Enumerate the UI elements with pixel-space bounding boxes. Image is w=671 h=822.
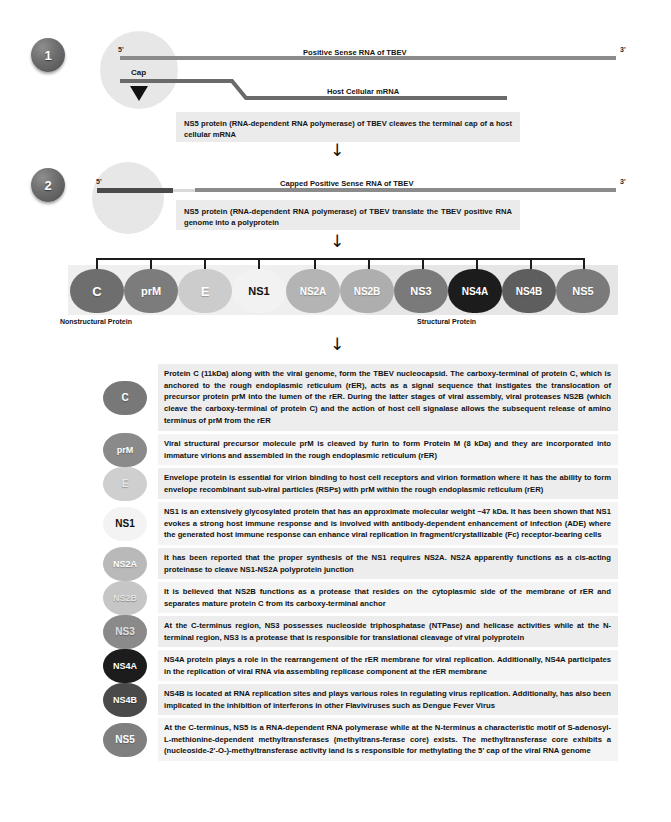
protein-marker-ns5: NS5 xyxy=(103,723,147,757)
protein-description-text-ns5: At the C-terminus, NS5 is a RNA-dependen… xyxy=(158,718,618,761)
protein-marker-label: C xyxy=(121,392,128,403)
polyprotein-oval-label: NS4A xyxy=(462,286,489,297)
protein-description-text-c: Protein C (11kDa) along with the viral g… xyxy=(158,364,618,431)
protein-marker-label: NS1 xyxy=(115,518,134,529)
capped-positive-sense-rna-strand xyxy=(195,188,616,192)
protein-marker-label: NS3 xyxy=(115,626,134,637)
polyprotein-oval-label: NS5 xyxy=(572,285,593,297)
polyprotein-oval-label: NS2A xyxy=(300,286,327,297)
protein-marker-ns2a: NS2A xyxy=(103,547,147,581)
capped-rna-highlight-blob xyxy=(92,162,164,234)
capped-rna-caption: Capped Positive Sense RNA of TBEV xyxy=(280,179,413,188)
three-prime-label-2: 3' xyxy=(620,178,626,185)
polyprotein-oval-e: E xyxy=(178,269,232,313)
polyprotein-oval-label: E xyxy=(201,284,210,299)
polyprotein-oval-ns1: NS1 xyxy=(232,269,286,313)
polyprotein-oval-ns4b: NS4B xyxy=(502,269,556,313)
protein-description-text-ns2a: It has been reported that the proper syn… xyxy=(158,548,618,579)
nonstructural-protein-label: Nonstructural Protein xyxy=(60,318,132,325)
polyprotein-oval-label: prM xyxy=(141,285,161,297)
protein-marker-label: NS5 xyxy=(115,734,134,745)
protein-marker-prm: prM xyxy=(103,433,147,467)
host-mrna-cap-segment xyxy=(120,79,223,83)
protein-marker-ns1: NS1 xyxy=(103,507,147,541)
step-badge-1-label: 1 xyxy=(44,48,51,63)
protein-description-text-ns1: NS1 is an extensively glycosylated prote… xyxy=(158,502,618,545)
host-mrna-strand xyxy=(252,96,507,100)
protein-description-text-ns2b: It is believed that NS2B functions as a … xyxy=(158,582,618,613)
step-2-note: NS5 protein (RNA-dependent RNA polymeras… xyxy=(176,200,520,230)
protein-description-text-ns4b: NS4B is located at RNA replication sites… xyxy=(158,684,618,715)
capped-rna-linker xyxy=(173,189,195,192)
protein-marker-label: NS4A xyxy=(113,661,137,671)
protein-marker-ns4b: NS4B xyxy=(103,683,147,717)
polyprotein-oval-c: C xyxy=(70,269,124,313)
step-1-note: NS5 protein (RNA-dependent RNA polymeras… xyxy=(176,112,520,142)
step-badge-2: 2 xyxy=(31,168,65,202)
structural-protein-label: Structural Protein xyxy=(417,318,476,325)
down-arrow-icon-1: ↓ xyxy=(330,142,344,159)
polyprotein-bracket xyxy=(96,258,584,260)
host-mrna-caption: Host Cellular mRNA xyxy=(327,87,399,96)
capped-rna-cap-segment xyxy=(97,188,173,193)
five-prime-label-1: 5' xyxy=(118,46,124,53)
protein-description-text-ns3: At the C-terminus region, NS3 possesses … xyxy=(158,616,618,647)
figure-canvas: 1 5' 3' Positive Sense RNA of TBEV Host … xyxy=(0,0,671,822)
protein-description-text-e: Envelope protein is essential for virion… xyxy=(158,468,618,499)
cleavage-arrowhead-icon xyxy=(130,86,148,101)
protein-marker-label: E xyxy=(122,478,129,489)
polyprotein-oval-ns3: NS3 xyxy=(394,269,448,313)
polyprotein-oval-label: C xyxy=(92,284,101,299)
protein-marker-e: E xyxy=(103,467,147,501)
polyprotein-oval-label: NS4B xyxy=(516,286,543,297)
polyprotein-oval-prm: prM xyxy=(124,269,178,313)
protein-marker-label: NS2B xyxy=(113,593,137,603)
protein-marker-label: NS4B xyxy=(113,695,137,705)
step-badge-2-label: 2 xyxy=(44,178,51,193)
protein-marker-ns4a: NS4A xyxy=(103,649,147,683)
five-prime-label-2: 5' xyxy=(96,178,102,185)
protein-marker-ns2b: NS2B xyxy=(103,581,147,615)
polyprotein-oval-ns2a: NS2A xyxy=(286,269,340,313)
protein-marker-c: C xyxy=(103,381,147,415)
step-badge-1: 1 xyxy=(31,38,65,72)
polyprotein-oval-label: NS2B xyxy=(354,286,381,297)
three-prime-label-1: 3' xyxy=(620,46,626,53)
cap-label: Cap xyxy=(131,68,146,77)
polyprotein-oval-ns5: NS5 xyxy=(556,269,610,313)
polyprotein-oval-label: NS1 xyxy=(248,285,269,297)
protein-description-text-ns4a: NS4A protein plays a role in the rearran… xyxy=(158,650,618,681)
protein-description-text-prm: Viral structural precursor molecule prM … xyxy=(158,434,618,465)
polyprotein-oval-ns2b: NS2B xyxy=(340,269,394,313)
down-arrow-icon-2: ↓ xyxy=(330,233,344,250)
polyprotein-oval-ns4a: NS4A xyxy=(448,269,502,313)
down-arrow-icon-3: ↓ xyxy=(330,336,344,353)
positive-sense-rna-caption: Positive Sense RNA of TBEV xyxy=(303,48,407,57)
protein-marker-label: prM xyxy=(117,445,134,455)
polyprotein-oval-label: NS3 xyxy=(410,285,431,297)
protein-marker-label: NS2A xyxy=(113,559,137,569)
protein-marker-ns3: NS3 xyxy=(103,615,147,649)
